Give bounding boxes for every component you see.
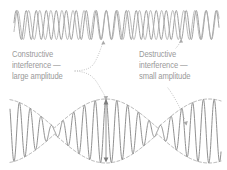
wave-figure: [0, 0, 227, 170]
interference-diagram: Constructive interference — large amplit…: [0, 0, 227, 170]
component-waves-panel: [14, 11, 219, 40]
constructive-interference-label: Constructive interference — large amplit…: [12, 50, 63, 82]
destructive-label-line1: Destructive: [139, 50, 191, 61]
constructive-arrowhead-up: [101, 41, 105, 45]
destructive-interference-label: Destructive interference — small amplitu…: [139, 50, 191, 82]
constructive-pointer-down-line: [75, 71, 106, 98]
constructive-label-line2: interference —: [12, 61, 63, 72]
constructive-pointer-up-line: [75, 43, 103, 71]
constructive-pointer-group: [75, 41, 108, 101]
destructive-label-line2: interference —: [139, 61, 191, 72]
destructive-arrowhead-up: [179, 39, 183, 43]
destructive-pointer-down-line: [168, 88, 185, 120]
constructive-label-line1: Constructive: [12, 50, 63, 61]
constructive-label-line3: large amplitude: [12, 72, 63, 83]
resultant-beat-wave: [10, 99, 221, 163]
amplitude-arrowhead-top: [104, 99, 109, 104]
resultant-wave-panel: [10, 99, 221, 163]
amplitude-arrowhead-bottom: [104, 157, 109, 162]
destructive-label-line3: small amplitude: [139, 72, 191, 83]
